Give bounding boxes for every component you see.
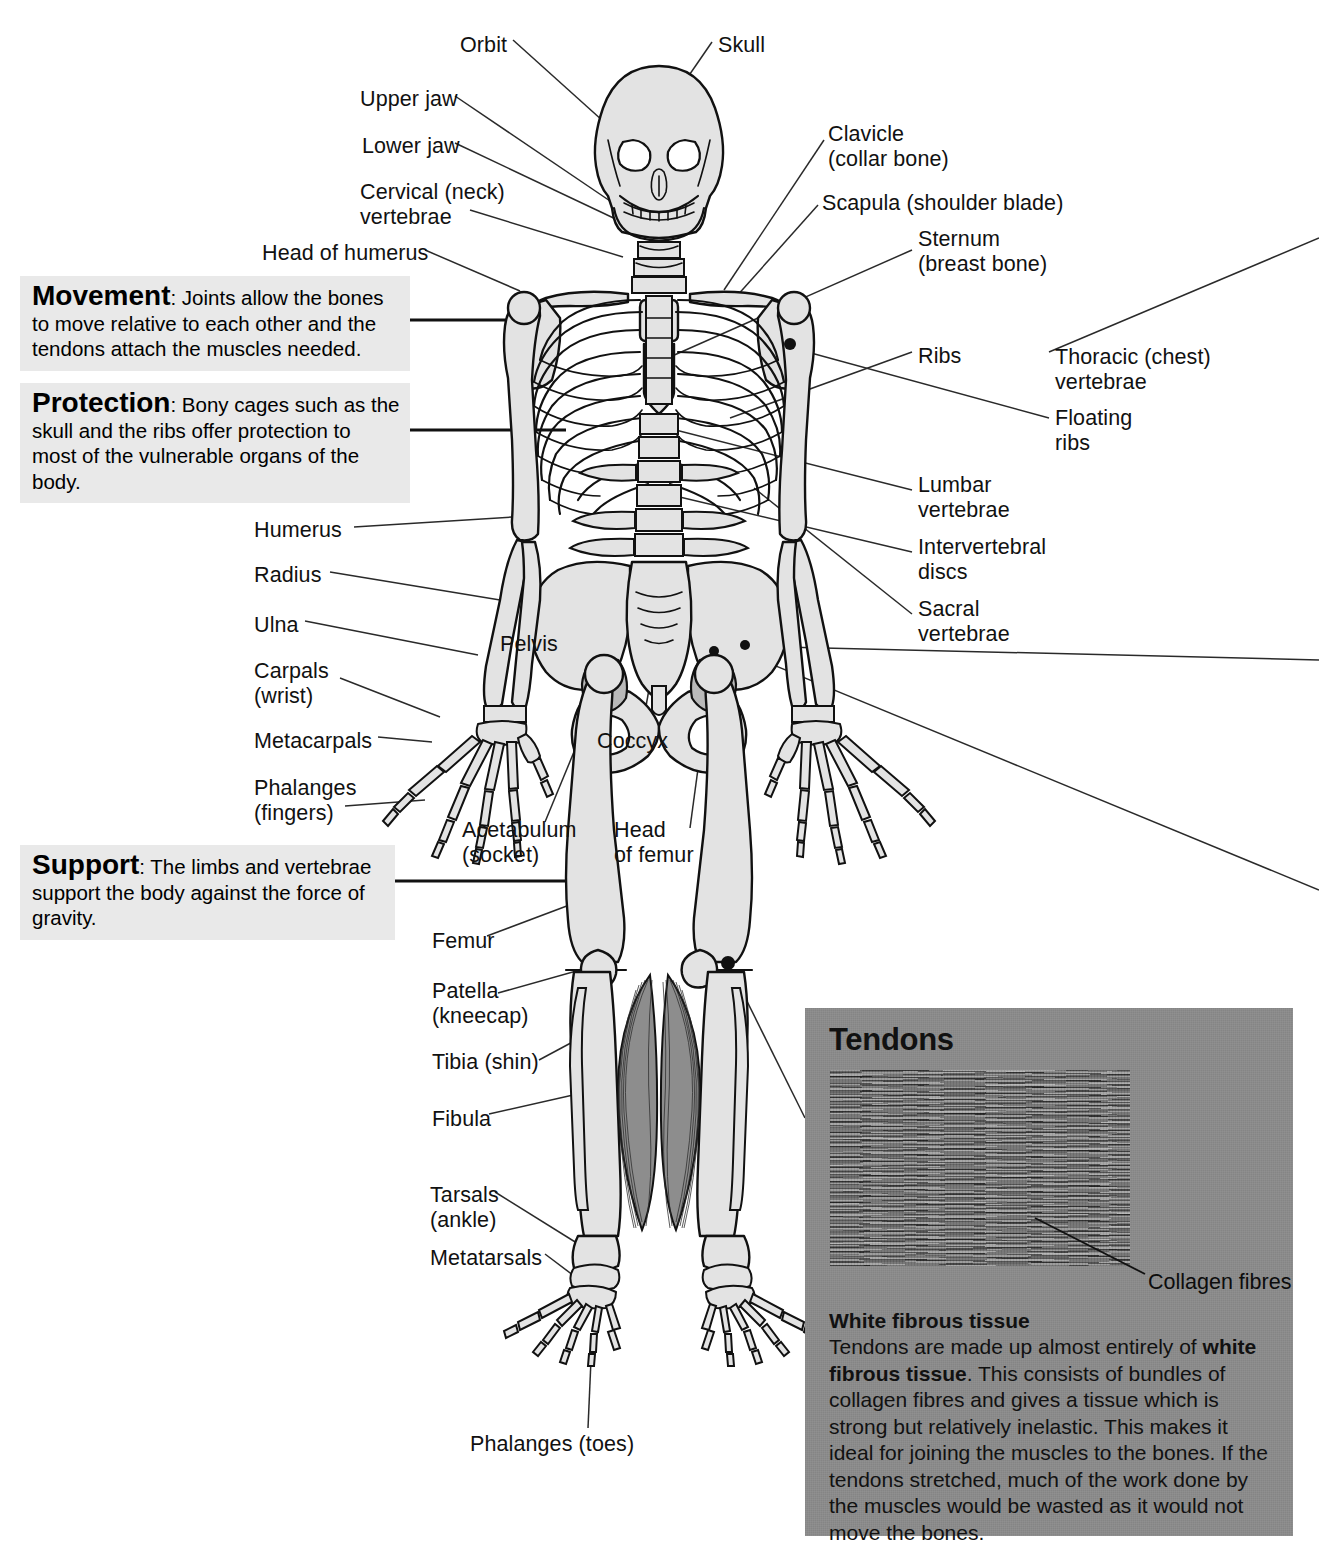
label-metatarsals: Metatarsals xyxy=(430,1246,542,1271)
collagen-fibre-micrograph xyxy=(830,1070,1130,1266)
label-upper-jaw: Upper jaw xyxy=(360,87,458,112)
desc-part-2: . This consists of bundles of collagen f… xyxy=(829,1362,1268,1544)
info-box-text-movement: Movement: Joints allow the bones to move… xyxy=(32,283,400,362)
info-box-movement: Movement: Joints allow the bones to move… xyxy=(20,276,410,371)
calf-muscle-left xyxy=(661,975,700,1230)
info-box-text-protection: Protection: Bony cages such as the skull… xyxy=(32,390,400,494)
right-foot xyxy=(702,1236,818,1366)
micrograph-fibre-texture-overlay xyxy=(830,1070,1130,1266)
label-phalanges-toes: Phalanges (toes) xyxy=(470,1432,634,1457)
label-metacarpals: Metacarpals xyxy=(254,729,372,754)
label-sternum: Sternum (breast bone) xyxy=(918,227,1047,277)
lumbar-spine xyxy=(570,414,748,556)
label-skull: Skull xyxy=(718,33,765,58)
label-scapula: Scapula (shoulder blade) xyxy=(822,191,1063,216)
label-ulna: Ulna xyxy=(254,613,299,638)
label-thoracic-vertebrae: Thoracic (chest) vertebrae xyxy=(1055,345,1211,395)
label-carpals: Carpals (wrist) xyxy=(254,659,329,709)
label-phalanges-fingers: Phalanges (fingers) xyxy=(254,776,357,826)
info-box-heading-support: Support xyxy=(32,849,139,880)
label-radius: Radius xyxy=(254,563,322,588)
info-box-heading-protection: Protection xyxy=(32,387,170,418)
desc-part-1: Tendons are made up almost entirely of xyxy=(829,1335,1203,1358)
label-patella: Patella (kneecap) xyxy=(432,979,529,1029)
label-tarsals: Tarsals (ankle) xyxy=(430,1183,499,1233)
label-sacral-vertebrae: Sacral vertebrae xyxy=(918,597,1010,647)
tendons-panel: Tendons Collagen fibres White fibrous ti… xyxy=(805,1008,1293,1536)
label-acetabulum: Acetabulum (socket) xyxy=(462,818,577,868)
label-tibia: Tibia (shin) xyxy=(432,1050,539,1075)
label-intervertebral-discs: Intervertebral discs xyxy=(918,535,1046,585)
info-box-support: Support: The limbs and vertebrae support… xyxy=(20,845,395,940)
label-femur: Femur xyxy=(432,929,495,954)
label-cervical-vertebrae: Cervical (neck) vertebrae xyxy=(360,180,505,230)
info-box-text-support: Support: The limbs and vertebrae support… xyxy=(32,852,385,931)
label-ribs: Ribs xyxy=(918,344,961,369)
tendons-description: Tendons are made up almost entirely of w… xyxy=(829,1334,1277,1544)
label-clavicle: Clavicle (collar bone) xyxy=(828,122,949,172)
label-floating-ribs: Floating ribs xyxy=(1055,406,1132,456)
calf-muscle-right xyxy=(618,975,657,1230)
info-box-heading-movement: Movement xyxy=(32,280,170,311)
info-box-protection: Protection: Bony cages such as the skull… xyxy=(20,383,410,503)
tendon-attachment-dot xyxy=(721,956,735,970)
label-fibula: Fibula xyxy=(432,1107,491,1132)
label-coccyx: Coccyx xyxy=(597,729,668,754)
label-head-of-femur: Head of femur xyxy=(614,818,694,868)
tendons-panel-title: Tendons xyxy=(829,1022,954,1058)
label-head-of-humerus: Head of humerus xyxy=(262,241,428,266)
tendons-panel-body: White fibrous tissue Tendons are made up… xyxy=(829,1308,1277,1544)
label-pelvis: Pelvis xyxy=(500,632,558,657)
label-lower-jaw: Lower jaw xyxy=(362,134,460,159)
label-humerus: Humerus xyxy=(254,518,342,543)
collagen-fibres-label: Collagen fibres xyxy=(1148,1270,1291,1295)
label-lumbar-vertebrae: Lumbar vertebrae xyxy=(918,473,1010,523)
label-orbit: Orbit xyxy=(460,33,507,58)
white-fibrous-tissue-heading: White fibrous tissue xyxy=(829,1308,1277,1334)
right-hand xyxy=(765,706,935,864)
